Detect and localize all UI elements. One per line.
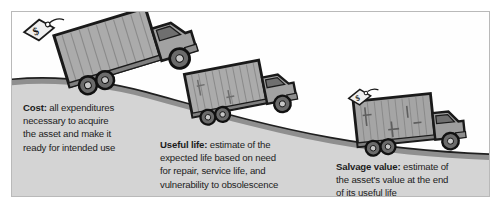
callout-useful-life: Useful life: estimate of the expected li…: [160, 138, 335, 191]
callout-useful-life-label: Useful life:: [160, 139, 207, 150]
callout-cost: Cost: all expenditures necessary to acqu…: [23, 101, 173, 154]
callout-cost-label: Cost:: [23, 102, 47, 113]
illustration-frame: $: [11, 11, 490, 197]
depreciation-figure: $: [0, 0, 504, 211]
price-tag-old-hole: [364, 91, 368, 95]
callout-salvage-value-label: Salvage value:: [336, 161, 401, 172]
callout-salvage-value: Salvage value: estimate of the asset's v…: [336, 160, 490, 197]
